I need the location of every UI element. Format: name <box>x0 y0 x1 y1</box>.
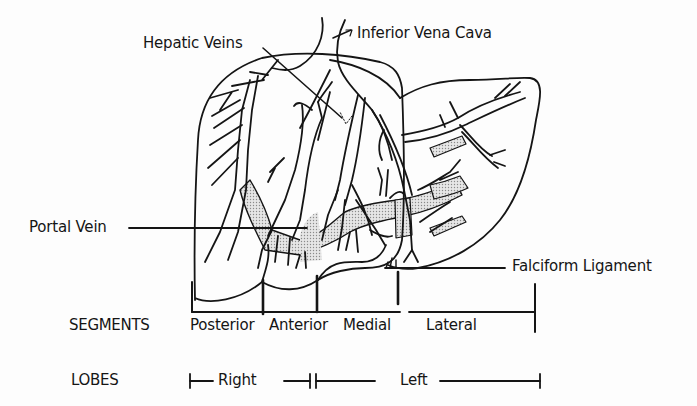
hepatic-veins-label: Hepatic Veins <box>143 36 243 51</box>
segment-medial-label: Medial <box>343 318 391 333</box>
segments-row-label: SEGMENTS <box>69 318 150 333</box>
lobe-left-label: Left <box>400 373 427 388</box>
segment-posterior-label: Posterior <box>190 318 255 333</box>
ivc-pointer <box>333 30 351 38</box>
liver-illustration <box>0 0 697 406</box>
liver-anatomy-diagram: Hepatic Veins Inferior Vena Cava Portal … <box>0 0 697 406</box>
right-lobe-outline <box>195 54 404 301</box>
segment-anterior-label: Anterior <box>269 318 328 333</box>
portal-vein-shading <box>240 136 468 262</box>
lobes-row-label: LOBES <box>71 373 118 388</box>
segment-lateral-label: Lateral <box>426 318 477 333</box>
falciform-ligament-label: Falciform Ligament <box>512 259 652 274</box>
portal-vein-label: Portal Vein <box>29 220 107 235</box>
inferior-vena-cava-label: Inferior Vena Cava <box>357 26 492 41</box>
lobe-right-label: Right <box>218 373 257 388</box>
